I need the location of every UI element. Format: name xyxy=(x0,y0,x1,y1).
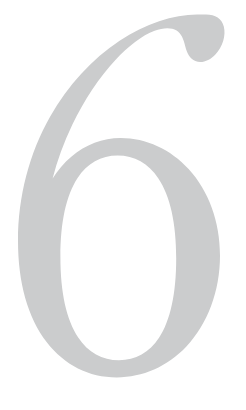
numeral-six-glyph xyxy=(0,0,246,410)
page-root: 6 xyxy=(0,0,246,410)
numeral-six-outline xyxy=(18,15,225,378)
decorative-numeral-six xyxy=(0,0,246,410)
